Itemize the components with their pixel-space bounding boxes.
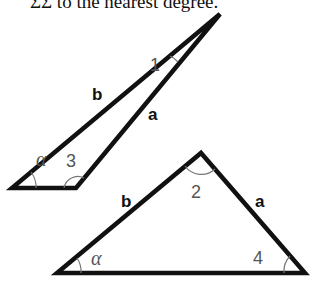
triangles-diagram: b a α 3 1 b a α 2 4	[0, 0, 311, 282]
angle-arc-1	[170, 56, 178, 62]
angle-label-alpha-top: α	[36, 148, 47, 170]
angle-label-1: 1	[150, 55, 160, 75]
angle-label-3: 3	[66, 151, 76, 171]
angle-label-4: 4	[253, 248, 263, 268]
side-label-a-top: a	[148, 105, 158, 124]
bottom-triangle: b a α 2 4	[57, 153, 305, 273]
side-label-a-bottom: a	[255, 192, 265, 211]
angle-label-alpha-bottom: α	[91, 247, 102, 269]
side-label-b-top: b	[92, 85, 102, 104]
angle-label-2: 2	[191, 182, 201, 202]
angle-arc-4	[284, 256, 290, 273]
side-label-b-bottom: b	[121, 192, 131, 211]
